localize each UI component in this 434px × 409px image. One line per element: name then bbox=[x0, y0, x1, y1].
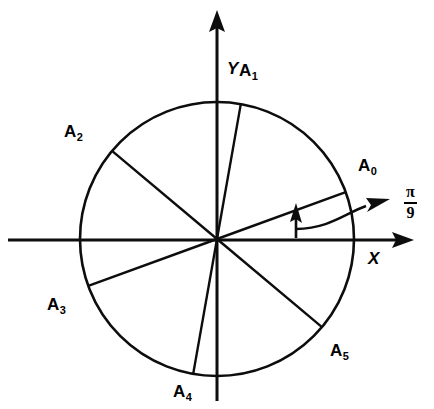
vertex-label-A5-base: A bbox=[330, 341, 342, 360]
radius-to-A0 bbox=[217, 192, 346, 239]
vertex-label-A1-base: A bbox=[239, 61, 251, 80]
vertex-label-A3-base: A bbox=[47, 295, 59, 314]
radius-to-A5 bbox=[217, 239, 322, 327]
vertex-label-A1-sub: 1 bbox=[252, 70, 258, 82]
vertex-label-A4-base: A bbox=[173, 382, 185, 401]
vertex-label-A3-sub: 3 bbox=[60, 304, 66, 316]
angle-fraction-pi-over-9: π 9 bbox=[404, 184, 417, 222]
radius-to-A4 bbox=[193, 239, 217, 374]
x-axis-label: X bbox=[368, 250, 379, 267]
vertex-label-A0: A0 bbox=[358, 157, 376, 174]
vertex-label-A5: A5 bbox=[330, 342, 348, 359]
radius-to-A1 bbox=[217, 104, 241, 239]
angle-leader-arrowhead bbox=[366, 198, 390, 212]
vertex-label-A2-sub: 2 bbox=[77, 131, 83, 143]
vertex-label-A4: A4 bbox=[173, 383, 191, 400]
angle-leader-curve bbox=[296, 206, 366, 229]
vertex-label-A2-base: A bbox=[64, 122, 76, 141]
hexagon-circle-diagram bbox=[0, 0, 434, 409]
vertex-label-A3: A3 bbox=[47, 296, 65, 313]
radius-to-A3 bbox=[88, 239, 217, 286]
vertex-label-A4-sub: 4 bbox=[186, 391, 192, 403]
angle-fraction-denominator: 9 bbox=[404, 205, 417, 222]
figure-root: Y X A0 A1 A2 A3 A4 A5 π 9 bbox=[0, 0, 434, 409]
angle-fraction-numerator: π bbox=[404, 184, 417, 202]
vertex-label-A1: A1 bbox=[239, 62, 257, 79]
vertex-label-A0-sub: 0 bbox=[371, 165, 377, 177]
vertex-label-A2: A2 bbox=[64, 123, 82, 140]
y-axis-label: Y bbox=[227, 60, 238, 77]
vertex-label-A5-sub: 5 bbox=[343, 350, 349, 362]
vertex-label-A0-base: A bbox=[358, 156, 370, 175]
radius-to-A2 bbox=[112, 151, 217, 239]
